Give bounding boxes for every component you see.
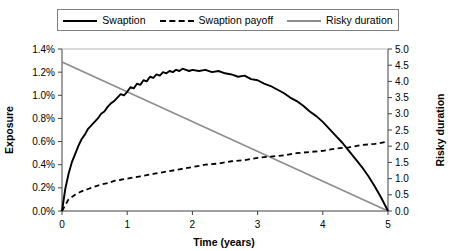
y-tick-label-right: 3.0 <box>395 108 409 119</box>
x-tick-label: 3 <box>255 219 261 230</box>
y-axis-left-ticks: 0.0%0.2%0.4%0.6%0.8%1.0%1.2%1.4% <box>32 44 62 217</box>
series-line-swaption <box>62 69 388 211</box>
y-tick-label-left: 1.0% <box>32 90 55 101</box>
x-tick-label: 5 <box>385 219 391 230</box>
y-tick-label-left: 0.2% <box>32 182 55 193</box>
x-tick-label: 0 <box>59 219 65 230</box>
y-tick-label-right: 0.5 <box>395 189 409 200</box>
series-line-risky-duration <box>62 62 388 211</box>
y-tick-label-right: 4.0 <box>395 76 409 87</box>
y-tick-label-left: 1.4% <box>32 44 55 55</box>
y-tick-label-left: 0.6% <box>32 136 55 147</box>
y-tick-label-right: 2.5 <box>395 125 409 136</box>
y-tick-label-left: 0.4% <box>32 159 55 170</box>
y-axis-right-title: Risky duration <box>434 94 446 167</box>
y-tick-label-right: 1.5 <box>395 157 409 168</box>
line-chart-svg: 0.0%0.2%0.4%0.6%0.8%1.0%1.2%1.4% 0.00.51… <box>0 0 456 251</box>
y-tick-label-right: 2.0 <box>395 141 409 152</box>
y-axis-left-title: Exposure <box>3 106 15 154</box>
y-tick-label-right: 0.0 <box>395 206 409 217</box>
data-series-layer <box>62 62 388 211</box>
x-tick-label: 2 <box>190 219 196 230</box>
y-tick-label-right: 3.5 <box>395 92 409 103</box>
x-tick-label: 1 <box>124 219 130 230</box>
y-tick-label-left: 0.8% <box>32 113 55 124</box>
x-axis-ticks: 012345 <box>59 211 391 230</box>
x-axis-title: Time (years) <box>193 236 255 248</box>
chart-figure: Swaption Swaption payoff Risky duration … <box>0 0 456 251</box>
series-line-swaption-payoff <box>62 142 388 211</box>
y-axis-right-ticks: 0.00.51.01.52.02.53.03.54.04.55.0 <box>388 44 409 217</box>
x-tick-label: 4 <box>320 219 326 230</box>
y-tick-label-left: 0.0% <box>32 206 55 217</box>
y-tick-label-right: 1.0 <box>395 173 409 184</box>
y-tick-label-left: 1.2% <box>32 67 55 78</box>
y-tick-label-right: 5.0 <box>395 44 409 55</box>
y-tick-label-right: 4.5 <box>395 60 409 71</box>
plot-area-container: 0.0%0.2%0.4%0.6%0.8%1.0%1.2%1.4% 0.00.51… <box>0 0 456 251</box>
